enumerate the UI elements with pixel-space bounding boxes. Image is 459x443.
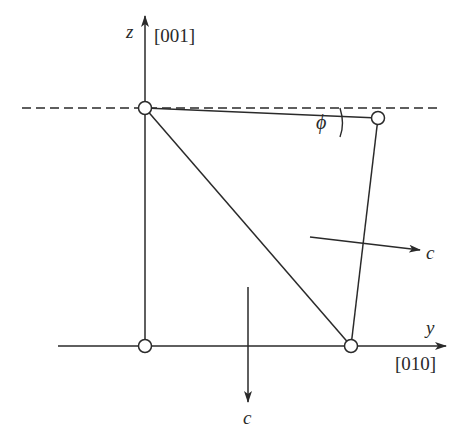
y-direction-label: [010] (395, 354, 436, 373)
atom-bottom-left (139, 340, 152, 353)
crystal-geometry-diagram: z [001] ϕ c y [010] c (0, 0, 459, 443)
z-direction-label: [001] (154, 26, 195, 45)
atom-top-left (139, 102, 152, 115)
phi-angle-label: ϕ (316, 112, 326, 132)
right-edge (351, 118, 378, 346)
atom-bottom-right (345, 340, 358, 353)
diagram-lines (0, 0, 459, 443)
phi-angle-arc (340, 108, 343, 137)
atom-top-right (372, 112, 385, 125)
top-edge (145, 108, 378, 118)
z-axis-label: z (126, 22, 133, 41)
c-right-label: c (426, 243, 434, 262)
y-axis-label: y (426, 318, 434, 337)
c-vector-right (310, 237, 420, 250)
c-down-label: c (243, 408, 251, 427)
